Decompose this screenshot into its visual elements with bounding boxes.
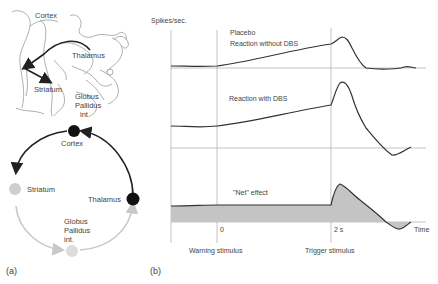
panel-a-label: (a) [6,266,17,276]
circuit-label-globus: Globus [64,217,88,226]
cortex-to-striatum-arrow [24,68,50,82]
event-warning-stimulus: Warning stimulus [189,247,243,255]
circuit-label-cortex: Cortex [61,139,83,148]
circuit-thalamus-to-cortex [82,131,133,196]
circuit-cortex-to-striatum [16,131,67,172]
tick-time: Time [414,226,429,233]
circuit-label-striatum: Striatum [27,185,55,194]
circuit-label-thalamus: Thalamus [88,195,121,204]
trace-label-with-dbs: Reaction with DBS [229,95,288,102]
anatomy-label-thalamus: Thalamus [72,51,105,60]
anatomy-label-globus: Globus [75,92,99,101]
node-cortex [68,125,80,137]
y-axis-label: Spikes/sec. [151,17,187,25]
node-striatum [9,183,21,195]
panel-b-label: (b) [150,266,161,276]
circuit-label-int: int. [64,235,74,244]
circuit-label-pallidus: Pallidus [64,226,91,235]
node-globus [66,245,78,257]
baselines [171,68,426,222]
trace-net-effect-fill [171,184,411,229]
trace-label-without-dbs: Reaction without DBS [230,40,298,47]
trace-with-dbs [171,82,411,155]
trace-label-placebo: Placebo [230,29,255,36]
circuit-striatum-to-globus [16,206,62,250]
anatomy-label-pallidus: Pallidus [75,101,102,110]
node-thalamus [127,193,140,206]
tick-zero: 0 [220,226,224,233]
event-trigger-stimulus: Trigger stimulus [305,247,355,255]
anatomy-label-int: int. [80,110,90,119]
trace-label-net-effect: "Net" effect [233,189,268,196]
anatomy-label-cortex: Cortex [35,11,57,20]
tick-two-seconds: 2 s [334,226,344,233]
anatomy-label-striatum: Striatum [34,85,62,94]
figure: Cortex Thalamus Striatum Globus Pallidus… [0,0,438,284]
